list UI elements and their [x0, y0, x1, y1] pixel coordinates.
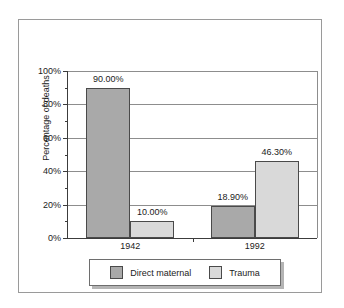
legend-item: Trauma [209, 266, 260, 279]
y-tick-mark-minor [65, 121, 68, 122]
y-tick-label: 20% [43, 200, 61, 210]
bar [86, 88, 130, 238]
y-tick-mark [63, 205, 68, 206]
grid-right-edge [317, 71, 318, 238]
x-tick-label: 1992 [245, 241, 265, 251]
y-tick-mark-minor [65, 88, 68, 89]
bar [255, 161, 299, 238]
legend-item: Direct maternal [110, 266, 191, 279]
y-tick-mark [63, 71, 68, 72]
y-axis-title: Percentage of deaths [41, 58, 51, 178]
bar-value-label: 18.90% [217, 192, 248, 202]
x-tick-mark [193, 238, 194, 242]
y-tick-mark-minor [65, 221, 68, 222]
y-tick-label: 60% [43, 133, 61, 143]
bar [211, 206, 255, 238]
bar-value-label: 10.00% [137, 207, 168, 217]
y-tick-mark [63, 238, 68, 239]
y-tick-mark [63, 104, 68, 105]
legend-swatch-icon [110, 266, 123, 279]
y-tick-label: 40% [43, 166, 61, 176]
y-tick-mark [63, 138, 68, 139]
bar-chart: Percentage of deaths 0%20%40%60%80%100% … [19, 20, 321, 292]
legend-label: Direct maternal [130, 268, 191, 278]
gridline [68, 71, 317, 72]
legend-label: Trauma [229, 268, 260, 278]
bar [130, 221, 174, 238]
y-tick-label: 100% [38, 66, 61, 76]
x-tick-label: 1942 [120, 241, 140, 251]
bar-value-label: 90.00% [93, 74, 124, 84]
y-tick-mark [63, 171, 68, 172]
y-tick-mark-minor [65, 155, 68, 156]
legend-swatch-icon [209, 266, 222, 279]
figure-frame: Percentage of deaths 0%20%40%60%80%100% … [18, 19, 322, 293]
chart-legend: Direct maternalTrauma [89, 259, 281, 286]
plot-area: 0%20%40%60%80%100% 90.00%10.00%18.90%46.… [67, 71, 317, 239]
bar-value-label: 46.30% [261, 147, 292, 157]
y-tick-mark-minor [65, 188, 68, 189]
y-tick-label: 0% [48, 233, 61, 243]
y-tick-label: 80% [43, 99, 61, 109]
